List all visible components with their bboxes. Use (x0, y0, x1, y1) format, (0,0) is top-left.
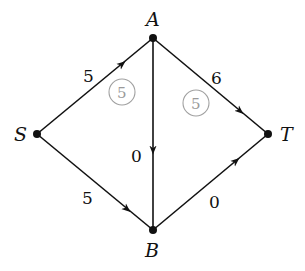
svg-text:5: 5 (117, 84, 127, 102)
node-t (264, 130, 272, 138)
weight-s-a: 5 (83, 66, 94, 86)
node-b (149, 226, 157, 234)
weight-a-t: 6 (211, 68, 222, 88)
svg-text:5: 5 (191, 95, 201, 113)
network-diagram: A S T B 5 6 0 5 0 5 5 (0, 0, 305, 271)
node-a (149, 34, 157, 42)
weight-a-b: 0 (131, 146, 142, 166)
node-label-a: A (144, 8, 160, 30)
circled-flow-a-t: 5 (183, 90, 209, 116)
node-label-b: B (144, 239, 159, 261)
edge-b-t (153, 134, 268, 230)
edge-s-a (37, 38, 153, 134)
weight-s-b: 5 (82, 188, 93, 208)
node-label-s: S (14, 123, 27, 145)
node-label-t: T (280, 123, 294, 145)
circled-flow-s-a: 5 (109, 79, 135, 105)
weight-b-t: 0 (209, 192, 220, 212)
node-s (33, 130, 41, 138)
